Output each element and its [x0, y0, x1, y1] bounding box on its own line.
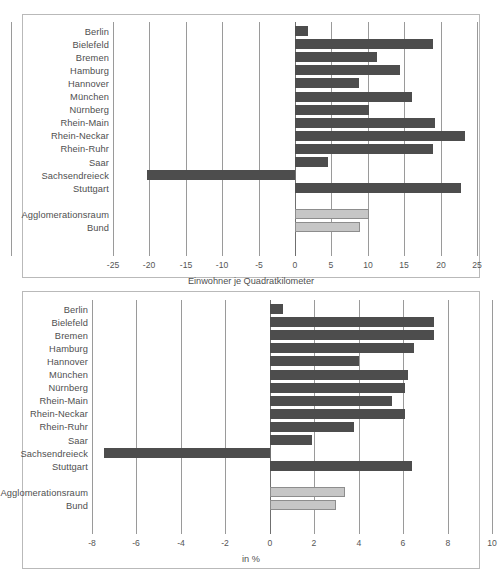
- category-label: Bund: [87, 223, 109, 233]
- data-bar: [295, 131, 465, 141]
- category-label: Rhein-Main: [39, 396, 88, 406]
- data-bar: [295, 92, 412, 102]
- category-label: Hamburg: [70, 66, 109, 76]
- x-tick-label: -20: [129, 260, 169, 270]
- x-tick-label: 0: [275, 260, 315, 270]
- data-bar: [295, 65, 400, 75]
- data-bar: [270, 435, 312, 445]
- category-label: Sachsendreieck: [20, 449, 88, 459]
- category-label: Agglomerationsraum: [0, 488, 88, 498]
- category-label: Stuttgart: [73, 184, 109, 194]
- gridline: [92, 300, 93, 534]
- gridline: [259, 22, 260, 256]
- reference-bar: [270, 500, 337, 510]
- category-label: Bielefeld: [51, 318, 88, 328]
- x-tick-label: -5: [239, 260, 279, 270]
- x-tick-label: 6: [383, 538, 423, 548]
- x-tick-label: 10: [472, 538, 502, 548]
- x-tick-label: 10: [348, 260, 388, 270]
- data-bar: [147, 170, 295, 180]
- plot-area-bottom: BerlinBielefeldBremenHamburgHannoverMünc…: [23, 292, 479, 568]
- reference-bar: [270, 487, 346, 497]
- data-bar: [104, 448, 270, 458]
- data-bar: [270, 461, 412, 471]
- x-tick-label: 4: [339, 538, 379, 548]
- data-bar: [270, 304, 283, 314]
- category-label-column: BerlinBielefeldBremenHamburgHannoverMünc…: [0, 292, 88, 518]
- category-label: Berlin: [64, 305, 88, 315]
- category-label: Rhein-Neckar: [30, 409, 88, 419]
- category-label: Hannover: [68, 79, 109, 89]
- data-bar: [295, 183, 461, 193]
- x-axis-title: Einwohner je Quadratkilometer: [23, 276, 479, 286]
- category-label: Hannover: [47, 357, 88, 367]
- data-bar: [295, 52, 377, 62]
- data-bar: [270, 343, 414, 353]
- label-separator-line: [11, 22, 12, 256]
- chart-panel-bottom: BerlinBielefeldBremenHamburgHannoverMünc…: [22, 291, 480, 569]
- gridline: [225, 300, 226, 534]
- reference-bar: [295, 209, 369, 219]
- data-bar: [270, 383, 406, 393]
- x-tick-label: -15: [166, 260, 206, 270]
- category-label: Bund: [66, 501, 88, 511]
- gridline: [448, 300, 449, 534]
- data-bar: [270, 409, 406, 419]
- gridline: [222, 22, 223, 256]
- data-bar: [270, 370, 408, 380]
- category-label: Sachsendreieck: [41, 171, 109, 181]
- category-label: Nürnberg: [69, 105, 109, 115]
- x-tick-label: -8: [72, 538, 112, 548]
- category-label-column: BerlinBielefeldBremenHamburgHannoverMünc…: [1, 15, 109, 241]
- gridline: [477, 22, 478, 256]
- category-label: Rhein-Ruhr: [60, 144, 109, 154]
- category-label: Stuttgart: [52, 462, 88, 472]
- category-label: Berlin: [85, 27, 109, 37]
- data-bar: [295, 144, 433, 154]
- category-label: Hamburg: [49, 344, 88, 354]
- category-label: Rhein-Neckar: [51, 131, 109, 141]
- data-bar: [295, 39, 433, 49]
- gridline: [492, 300, 493, 534]
- data-bar: [270, 317, 434, 327]
- gridline: [186, 22, 187, 256]
- gridline: [113, 22, 114, 256]
- category-label: München: [49, 370, 88, 380]
- x-tick-label: -25: [93, 260, 133, 270]
- data-bar: [270, 356, 359, 366]
- x-tick-label: -2: [205, 538, 245, 548]
- category-label: Bremen: [76, 53, 109, 63]
- gridline: [136, 300, 137, 534]
- x-tick-label: 0: [250, 538, 290, 548]
- x-tick-label: 15: [384, 260, 424, 270]
- gridline: [149, 22, 150, 256]
- data-bar: [270, 422, 354, 432]
- x-tick-label: 20: [421, 260, 461, 270]
- data-bar: [295, 157, 328, 167]
- chart-panel-top: BerlinBielefeldBremenHamburgHannoverMünc…: [22, 14, 480, 278]
- data-bar: [295, 105, 369, 115]
- x-tick-label: -4: [161, 538, 201, 548]
- gridline: [181, 300, 182, 534]
- x-tick-label: 25: [457, 260, 497, 270]
- category-label: Nürnberg: [48, 383, 88, 393]
- category-label: München: [70, 92, 109, 102]
- data-bar: [295, 78, 359, 88]
- x-tick-label: 8: [428, 538, 468, 548]
- x-tick-label: 5: [311, 260, 351, 270]
- category-label: Rhein-Ruhr: [39, 422, 88, 432]
- data-bar: [295, 118, 435, 128]
- data-bar: [270, 396, 392, 406]
- data-bar: [295, 26, 308, 36]
- data-bar: [270, 330, 434, 340]
- category-label: Bremen: [55, 331, 88, 341]
- x-tick-label: -6: [116, 538, 156, 548]
- category-label: Agglomerationsraum: [21, 210, 109, 220]
- x-axis-title: in %: [23, 554, 479, 564]
- x-tick-label: 2: [294, 538, 334, 548]
- x-tick-label: -10: [202, 260, 242, 270]
- plot-area-top: BerlinBielefeldBremenHamburgHannoverMünc…: [23, 15, 479, 277]
- category-label: Rhein-Main: [60, 118, 109, 128]
- category-label: Saar: [89, 158, 109, 168]
